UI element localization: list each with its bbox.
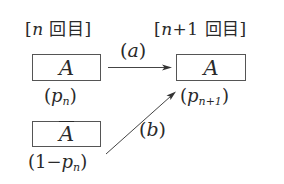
arrow-b-icon (106, 92, 176, 155)
arrow-a-icon (108, 65, 172, 71)
transition-arrows (0, 0, 284, 184)
